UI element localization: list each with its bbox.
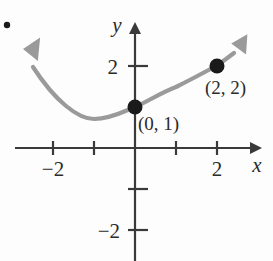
bullet-marker-icon — [4, 22, 10, 28]
y-axis-arrow-icon — [129, 22, 141, 34]
coordinate-plane-svg: y x 2 −2 −2 2 (0, 1) (2, 2) — [0, 0, 273, 261]
curve-left-arrow-icon — [23, 34, 51, 62]
x-tick-label-2: 2 — [212, 157, 223, 181]
graph-figure: y x 2 −2 −2 2 (0, 1) (2, 2) — [0, 0, 273, 261]
x-axis-label: x — [251, 153, 262, 177]
curve-right-arrow-icon — [230, 30, 254, 55]
point-label-right: (2, 2) — [205, 77, 246, 99]
y-tick-label-neg2: −2 — [98, 219, 120, 243]
x-tick-label-neg2: −2 — [42, 157, 64, 181]
point-label-vertex: (0, 1) — [138, 113, 179, 135]
data-point-right — [210, 59, 225, 74]
y-axis-label: y — [110, 13, 122, 37]
y-tick-label-2: 2 — [108, 55, 119, 79]
